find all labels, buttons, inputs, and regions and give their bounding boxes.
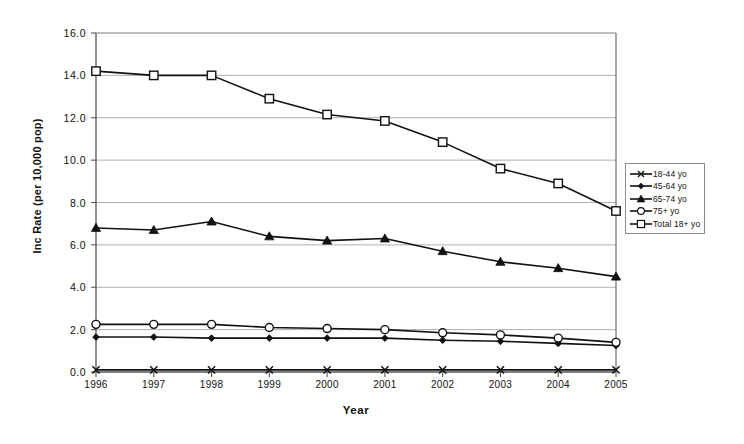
legend-label: 45-64 yo bbox=[653, 181, 687, 191]
x-axis-title: Year bbox=[96, 404, 616, 416]
legend-marker-filled-triangle-icon bbox=[629, 193, 653, 205]
marker-open-circle bbox=[496, 331, 504, 339]
legend-item[interactable]: 65-74 yo bbox=[629, 193, 700, 205]
marker-open-square bbox=[265, 94, 273, 102]
marker-open-square bbox=[381, 117, 389, 125]
marker-open-circle bbox=[612, 338, 620, 346]
legend-marker-open-square-icon bbox=[629, 218, 653, 230]
marker-open-square bbox=[323, 110, 331, 118]
legend-label: Total 18+ yo bbox=[653, 219, 700, 229]
legend-label: 65-74 yo bbox=[653, 194, 687, 204]
marker-open-circle bbox=[92, 320, 100, 328]
marker-open-square bbox=[150, 71, 158, 79]
marker-open-circle bbox=[381, 326, 389, 334]
marker-open-square bbox=[438, 138, 446, 146]
legend-marker-x-cross-icon bbox=[629, 168, 653, 180]
marker-open-circle bbox=[638, 208, 645, 215]
legend-item[interactable]: Total 18+ yo bbox=[629, 218, 700, 230]
marker-filled-diamond bbox=[638, 183, 644, 189]
x-axis-tick-label: 2004 bbox=[546, 379, 569, 390]
marker-open-square bbox=[207, 71, 215, 79]
marker-open-square bbox=[637, 220, 644, 227]
legend-label: 75+ yo bbox=[653, 206, 679, 216]
legend-marker-open-circle-icon bbox=[629, 205, 653, 217]
legend-item[interactable]: 45-64 yo bbox=[629, 180, 700, 192]
legend-item[interactable]: 75+ yo bbox=[629, 205, 700, 217]
marker-open-circle bbox=[150, 320, 158, 328]
marker-open-circle bbox=[554, 334, 562, 342]
x-axis-tick-label: 2003 bbox=[489, 379, 512, 390]
x-axis-tick-label: 1997 bbox=[142, 379, 165, 390]
marker-open-circle bbox=[265, 324, 273, 332]
x-axis-tick-label: 2005 bbox=[604, 379, 627, 390]
legend-marker-filled-diamond-icon bbox=[629, 180, 653, 192]
chart-legend: 18-44 yo45-64 yo65-74 yo75+ yoTotal 18+ … bbox=[625, 163, 705, 234]
marker-open-circle bbox=[323, 325, 331, 333]
marker-open-square bbox=[554, 179, 562, 187]
x-axis-tick-label: 1998 bbox=[200, 379, 223, 390]
marker-open-circle bbox=[439, 329, 447, 337]
x-axis-tick-label: 2002 bbox=[431, 379, 454, 390]
x-axis-tick-label: 1999 bbox=[258, 379, 281, 390]
x-axis-tick-label: 2001 bbox=[373, 379, 396, 390]
marker-open-square bbox=[92, 67, 100, 75]
incidence-rate-line-chart: Inc Rate (per 10,000 pop) 0.02.04.06.08.… bbox=[0, 0, 744, 444]
marker-open-square bbox=[496, 164, 504, 172]
x-axis-tick-label: 2000 bbox=[315, 379, 338, 390]
marker-open-square bbox=[612, 207, 620, 215]
x-axis-tick-labels: 1996199719981999200020012002200320042005 bbox=[96, 379, 616, 399]
x-axis-tick-label: 1996 bbox=[84, 379, 107, 390]
marker-open-circle bbox=[208, 320, 216, 328]
legend-item[interactable]: 18-44 yo bbox=[629, 168, 700, 180]
legend-label: 18-44 yo bbox=[653, 169, 687, 179]
